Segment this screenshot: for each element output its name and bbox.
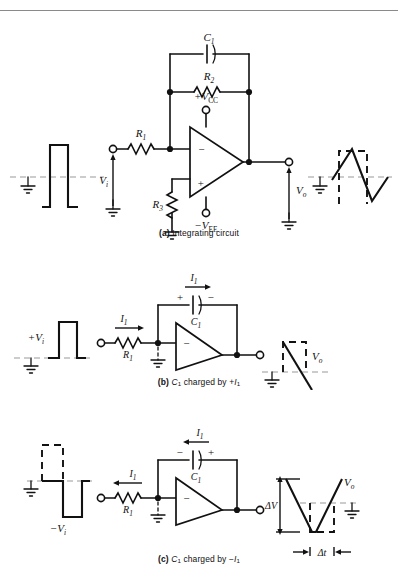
current-arrow-i1-input-b: I1 [115,313,144,331]
op-amp-c: − [176,478,222,525]
label-r1-c: R1 [122,504,133,518]
caption-a: (a) Integrating circuit [0,228,398,238]
cap-polarity-right-b: − [207,291,214,303]
node-r2-left-a [167,89,173,95]
output-node-a [246,159,252,165]
label-c1-b: C1 [191,316,201,330]
inverting-input-label-c: − [183,492,190,504]
label-vi-b: +Vi [28,331,44,346]
caption-b-text: C1 charged by +I1 [171,377,240,387]
ground-symbol-input-c [24,481,38,496]
panel-a-schematic: Vi R1 C1 [0,14,398,244]
label-vo-c: Vo [344,476,355,491]
label-vo-a: Vo [296,184,307,199]
input-terminal-a[interactable] [109,145,116,152]
delta-v-annotation-c: ΔV [264,476,300,535]
output-node-c [234,507,240,513]
label-r1-a: R1 [135,127,146,142]
ground-symbol-input-a [21,177,35,193]
label-delta-v-c: ΔV [264,500,279,511]
noninverting-input-label-a: + [197,177,204,189]
output-node-b [234,352,240,358]
cap-polarity-left-b: + [176,291,183,303]
ground-symbol-vo-a [282,213,296,229]
ground-symbol-vi-a [106,200,120,216]
output-terminal-b[interactable] [256,351,263,358]
output-section-a: Vo [243,158,307,229]
caption-c: (c) C1 charged by −I1 [0,554,398,564]
output-section-b [222,351,264,358]
label-i1-input-c: I1 [128,468,136,482]
vcc-terminal-a[interactable] [202,106,209,113]
panel-b-schematic: +Vi R1 I1 [0,265,398,390]
caption-b: (b) C1 charged by +I1 [0,377,398,387]
input-terminal-c[interactable] [97,494,104,501]
ground-symbol-output-c [345,503,359,518]
input-branch-b: R1 I1 [97,313,158,363]
figure-page: Vi R1 C1 [0,0,398,577]
panel-a: Vi R1 C1 [0,14,398,244]
resistor-r1-a: R1 [117,127,170,154]
label-vo-b: Vo [312,350,323,365]
inverting-input-label-b: − [183,337,190,349]
label-i1-cap-c: I1 [195,427,203,441]
op-amp-b: − [176,323,222,370]
panel-c: −Vi R1 I1 [0,420,398,577]
cap-polarity-left-c: − [176,446,183,458]
label-c1-a: C1 [203,31,214,46]
node-r2-right-a [246,89,252,95]
current-arrow-i1-input-c: I1 [113,468,142,486]
ground-symbol-output-a [313,177,327,193]
supply-vcc-a: +VCC [194,90,218,127]
panel-b: +Vi R1 I1 [0,265,398,390]
caption-a-tag: (a) [159,228,170,238]
input-waveform-a [10,145,104,207]
input-terminal-b[interactable] [97,339,104,346]
caption-a-text: Integrating circuit [172,228,239,238]
op-amp-a: − + [190,127,243,197]
label-i1-cap-b: I1 [189,272,197,286]
input-branch-c: R1 I1 [97,468,158,518]
label-vi-a: Vi [99,174,108,189]
label-r2-a: R2 [203,70,215,85]
output-terminal-c[interactable] [256,506,263,513]
vi-terminal-a: Vi [99,145,120,216]
output-terminal-a[interactable] [285,158,292,165]
caption-b-tag: (b) [158,377,169,387]
caption-c-tag: (c) [158,554,169,564]
output-waveform-a [308,149,392,204]
virtual-ground-symbol-c [151,502,165,522]
input-waveform-c: −Vi [24,445,92,537]
ground-symbol-input-b [24,358,38,373]
virtual-ground-symbol-b [151,347,165,367]
top-rule [0,10,398,11]
current-arrow-i1-cap-b: I1 [185,272,211,290]
label-i1-input-b: I1 [119,313,127,327]
label-r1-b: R1 [122,349,133,363]
output-section-c [222,506,264,513]
input-waveform-b: +Vi [14,322,92,373]
inverting-input-label-a: − [198,143,205,155]
label-r3-a: R3 [152,198,164,213]
cap-polarity-right-c: + [207,446,214,458]
label-vi-c: −Vi [50,522,66,537]
current-arrow-i1-cap-c: I1 [183,427,209,445]
resistor-r2-a: R2 [167,70,252,97]
output-waveform-c: Vo ΔV Δt [264,476,360,558]
vee-terminal-a[interactable] [202,209,209,216]
label-c1-c: C1 [191,471,201,485]
caption-c-text: C1 charged by −I1 [171,554,240,564]
